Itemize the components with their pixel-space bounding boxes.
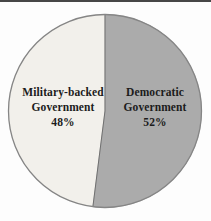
slice-label-democratic: Democratic Government 52% (103, 85, 207, 130)
slice-value: 48% (11, 115, 115, 130)
slice-label-line: Democratic (103, 85, 207, 100)
slice-label-line: Military-backed (11, 85, 115, 100)
pie-chart-area: Military-backed Government 48% Democrati… (0, 0, 211, 221)
slice-label-line: Government (11, 100, 115, 115)
slice-label-military-backed: Military-backed Government 48% (11, 85, 115, 130)
slice-label-line: Government (103, 100, 207, 115)
figure: Military-backed Government 48% Democrati… (0, 0, 211, 221)
slice-value: 52% (103, 115, 207, 130)
